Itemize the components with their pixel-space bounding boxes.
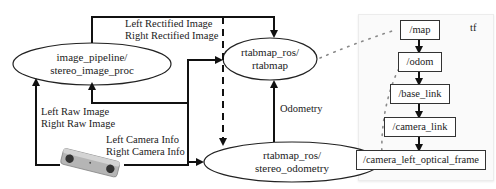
node-label-line2: stereo_image_proc (42, 64, 142, 77)
label-right-raw-image: Right Raw Image (41, 118, 115, 130)
node-stereo-odometry-label: rtabmap_ros/ stereo_odometry (242, 149, 342, 175)
tf-frame-camera-link: /camera_link (384, 117, 456, 137)
tf-title: tf (470, 22, 476, 33)
node-rtabmap-label: rtabmap_ros/ rtabmap (225, 46, 315, 72)
label-left-camera-info: Left Camera Info (106, 134, 179, 146)
dotted-connector-rtabmap-tf (320, 30, 395, 58)
tf-frame-map: /map (400, 20, 440, 40)
tf-frame-base-link: /base_link (390, 84, 450, 104)
node-label-line1: image_pipeline/ (42, 51, 142, 64)
node-label-line1: rtabmap_ros/ (225, 46, 315, 59)
tf-frame-camera-left-optical-frame: /camera_left_optical_frame (356, 150, 486, 170)
label-right-rectified-image: Right Rectified Image (125, 30, 218, 42)
label-left-raw-image: Left Raw Image (41, 106, 109, 118)
edge-raw-right (92, 84, 188, 103)
node-stereo-image-proc-label: image_pipeline/ stereo_image_proc (42, 51, 142, 77)
label-right-camera-info: Right Camera Info (106, 146, 185, 158)
node-label-line2: rtabmap (225, 59, 315, 72)
label-odometry: Odometry (280, 103, 323, 115)
node-label-line2: stereo_odometry (242, 162, 342, 175)
tf-frame-odom: /odom (398, 52, 442, 72)
node-label-line1: rtabmap_ros/ (242, 149, 342, 162)
label-left-rectified-image: Left Rectified Image (125, 18, 212, 30)
